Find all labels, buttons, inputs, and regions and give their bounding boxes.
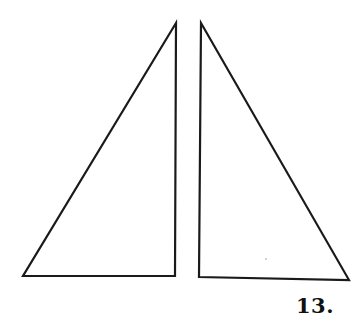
right-triangle: [199, 23, 349, 280]
speck-dot: [265, 258, 267, 260]
left-triangle: [23, 23, 176, 276]
figure-number-label: 13.: [296, 293, 334, 318]
figure-canvas: [0, 0, 363, 319]
